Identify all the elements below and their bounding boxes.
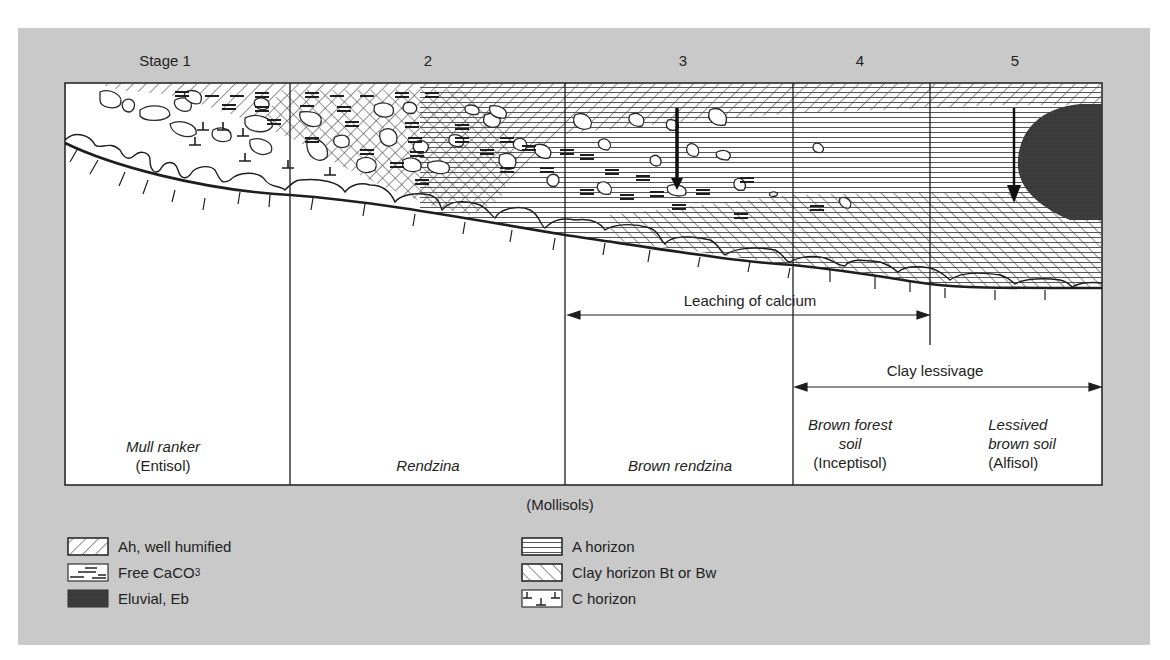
legend-swatch-a-horizon — [522, 538, 562, 555]
legend-item-clay-horizon: Clay horizon Bt or Bw — [572, 562, 716, 582]
soil-name: Mull ranker — [126, 437, 200, 456]
stage-label-4: 4 — [856, 52, 864, 69]
soil-name: Rendzina — [396, 456, 459, 475]
clay-lessivage-label: Clay lessivage — [887, 362, 984, 379]
soil-name-lessived-brown-soil: Lessived brown soil (Alfisol) — [988, 415, 1056, 472]
soil-name-brown-rendzina: Brown rendzina — [628, 456, 732, 475]
legend-item-c-horizon: C horizon — [572, 588, 636, 608]
legend-item-caco3: Free CaCO3 — [118, 562, 200, 582]
soil-class: (Entisol) — [126, 456, 200, 475]
soil-name-line1: Lessived — [988, 415, 1056, 434]
legend-label: C horizon — [572, 590, 636, 607]
stage-label-1: Stage 1 — [139, 52, 191, 69]
soil-class: (Inceptisol) — [808, 453, 892, 472]
legend-item-eluvial: Eluvial, Eb — [118, 588, 189, 608]
legend-swatch-clay — [522, 564, 562, 581]
stage-label-2: 2 — [424, 52, 432, 69]
legend-label: Ah, well humified — [118, 538, 231, 555]
legend-item-ah: Ah, well humified — [118, 536, 231, 556]
soil-name: Brown rendzina — [628, 456, 732, 475]
soil-name-rendzina: Rendzina — [396, 456, 459, 475]
stage-label-5: 5 — [1011, 52, 1019, 69]
legend-swatch-ah — [68, 538, 108, 555]
legend-label: A horizon — [572, 538, 635, 555]
soil-name-line2: brown soil — [988, 434, 1056, 453]
soil-sequence-diagram — [0, 0, 1170, 660]
legend-label-subscript: 3 — [195, 567, 201, 578]
legend-label: Clay horizon Bt or Bw — [572, 564, 716, 581]
soil-name-line2: soil — [808, 434, 892, 453]
soil-class: (Alfisol) — [988, 453, 1056, 472]
soil-name-brown-forest-soil: Brown forest soil (Inceptisol) — [808, 415, 892, 472]
legend-item-a-horizon: A horizon — [572, 536, 635, 556]
leaching-of-calcium-label: Leaching of calcium — [684, 292, 817, 309]
soil-name-mull-ranker: Mull ranker (Entisol) — [126, 437, 200, 475]
legend-label: Free CaCO — [118, 564, 195, 581]
mollisols-group-label: (Mollisols) — [526, 496, 594, 513]
soil-name-line1: Brown forest — [808, 415, 892, 434]
legend-label: Eluvial, Eb — [118, 590, 189, 607]
legend-swatch-eluvial — [68, 590, 108, 607]
stage-label-3: 3 — [679, 52, 687, 69]
